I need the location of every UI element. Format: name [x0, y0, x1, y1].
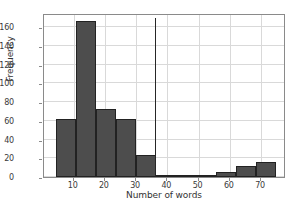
y-axis-tick-mark	[39, 84, 42, 85]
y-axis-tick-mark	[39, 178, 42, 179]
vertical-marker-line	[155, 18, 156, 177]
x-axis-tick-mark	[229, 178, 230, 181]
x-axis-tick-label: 40	[151, 182, 181, 190]
x-axis-tick-mark	[73, 178, 74, 181]
x-axis-tick-label: 30	[120, 182, 150, 190]
x-axis-tick-label: 20	[89, 182, 119, 190]
y-axis-tick-mark	[39, 122, 42, 123]
x-axis-tick-mark	[166, 178, 167, 181]
x-axis-tick-mark	[260, 178, 261, 181]
x-axis-tick-mark	[198, 178, 199, 181]
plot-area	[43, 14, 285, 178]
histogram-bar	[76, 21, 96, 177]
x-axis-tick-mark	[104, 178, 105, 181]
y-axis-tick-label: 40	[0, 137, 14, 145]
histogram-bar	[116, 119, 136, 177]
x-axis-tick-label: 60	[214, 182, 244, 190]
gridline-vertical	[199, 15, 200, 177]
x-axis-tick-label: 10	[58, 182, 88, 190]
histogram-bar	[236, 166, 256, 177]
x-axis-tick-mark	[135, 178, 136, 181]
histogram-bar	[196, 175, 216, 177]
y-axis-tick-label: 80	[0, 99, 14, 107]
histogram-bar	[176, 175, 196, 177]
x-axis-tick-label: 70	[245, 182, 275, 190]
y-axis-tick-label: 140	[0, 43, 14, 51]
histogram-bar	[216, 172, 236, 177]
gridline-vertical	[261, 15, 262, 177]
y-axis-tick-mark	[39, 47, 42, 48]
gridline-vertical	[167, 15, 168, 177]
y-axis-tick-label: 20	[0, 155, 14, 163]
y-axis-tick-mark	[39, 28, 42, 29]
x-axis-tick-label: 50	[183, 182, 213, 190]
histogram-figure: Frequency Number of words 02040608010012…	[0, 0, 301, 207]
y-axis-tick-mark	[39, 66, 42, 67]
y-axis-tick-mark	[39, 159, 42, 160]
histogram-bar	[96, 109, 116, 177]
histogram-bar	[256, 162, 276, 177]
y-axis-tick-label: 0	[0, 174, 14, 182]
histogram-bar	[156, 175, 176, 177]
y-axis-tick-label: 160	[0, 24, 14, 32]
y-axis-tick-label: 60	[0, 118, 14, 126]
y-axis-tick-mark	[39, 141, 42, 142]
y-axis-tick-label: 120	[0, 62, 14, 70]
y-axis-tick-label: 100	[0, 80, 14, 88]
x-axis-label: Number of words	[43, 190, 285, 200]
histogram-bar	[136, 155, 156, 177]
gridline-vertical	[230, 15, 231, 177]
histogram-bar	[56, 119, 76, 177]
y-axis-tick-mark	[39, 103, 42, 104]
